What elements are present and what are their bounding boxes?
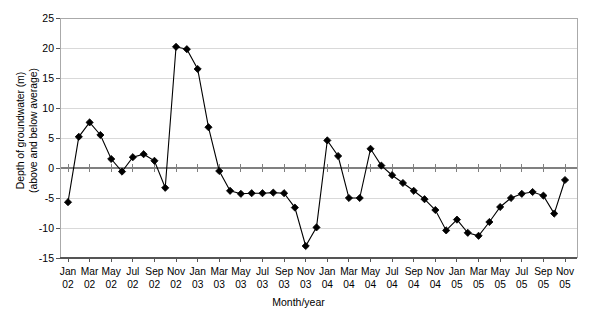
data-point-marker — [335, 152, 342, 159]
data-point-marker — [64, 199, 71, 206]
data-point-marker — [313, 224, 320, 231]
data-point-marker — [529, 188, 536, 195]
data-point-marker — [367, 145, 374, 152]
data-point-marker — [226, 187, 233, 194]
data-point-marker — [356, 194, 363, 201]
data-point-marker — [302, 242, 309, 249]
data-point-marker — [551, 210, 558, 217]
data-series-line — [68, 47, 565, 246]
data-point-marker — [237, 190, 244, 197]
groundwater-depth-line-chart: Depth of groundwater (m) (above and belo… — [0, 0, 597, 318]
data-point-marker — [194, 65, 201, 72]
data-point-marker — [518, 190, 525, 197]
data-point-marker — [172, 43, 179, 50]
data-point-marker — [183, 46, 190, 53]
data-point-marker — [205, 124, 212, 131]
data-point-marker — [345, 194, 352, 201]
data-point-marker — [259, 190, 266, 197]
data-point-marker — [248, 190, 255, 197]
data-point-marker — [140, 151, 147, 158]
plot-area — [0, 0, 597, 318]
data-point-marker — [151, 157, 158, 164]
data-point-marker — [561, 176, 568, 183]
data-point-marker — [162, 184, 169, 191]
data-point-marker — [270, 189, 277, 196]
data-point-marker — [399, 179, 406, 186]
